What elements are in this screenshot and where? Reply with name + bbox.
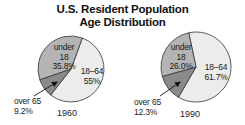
label-1960-under18-pct: 35.8% [47, 62, 81, 72]
label-1990-18to64: 18–64 61.7% [201, 63, 231, 82]
label-1990-18to64-pct: 61.7% [201, 73, 231, 83]
label-1960-over65-pct: 9.2% [14, 107, 41, 117]
label-1990-under18: under 18 26.0% [166, 43, 196, 72]
label-1990-under18-pct: 26.0% [166, 62, 196, 72]
label-1960-over65: over 65 9.2% [14, 97, 41, 116]
label-1960-under18: under 18 35.8% [47, 43, 81, 72]
label-1990-over65-pct: 12.3% [134, 108, 161, 118]
label-1990-over65: over 65 12.3% [134, 98, 161, 117]
year-label-1960: 1960 [47, 108, 87, 118]
label-1960-18to64: 18–64 55% [78, 67, 106, 86]
year-label-1990: 1990 [170, 109, 210, 119]
label-1960-18to64-pct: 55% [78, 77, 106, 87]
